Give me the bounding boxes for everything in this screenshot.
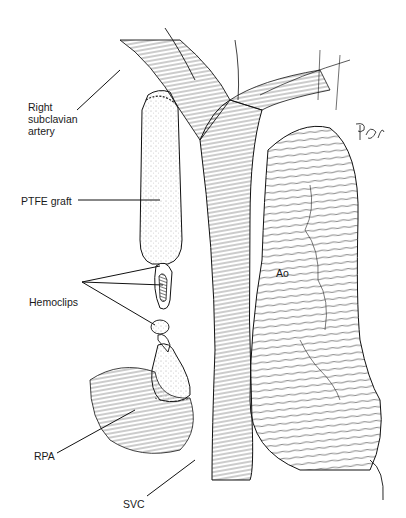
label-line-3: artery	[28, 125, 78, 137]
rpa-vessel	[90, 344, 193, 454]
illustration-drawing	[0, 0, 406, 518]
surgical-illustration: Right subclavian artery PTFE graft Hemoc…	[0, 0, 406, 518]
ptfe-graft	[140, 91, 182, 264]
hemoclips	[151, 263, 172, 352]
aorta	[250, 126, 383, 500]
signature-mark	[356, 124, 384, 140]
label-hemoclips: Hemoclips	[29, 296, 78, 308]
label-line-2: subclavian	[28, 113, 78, 125]
label-ao: Ao	[276, 267, 289, 279]
label-line-1: Right	[28, 101, 78, 113]
label-ptfe-graft: PTFE graft	[21, 195, 72, 207]
label-rpa: RPA	[34, 450, 55, 462]
label-svc: SVC	[123, 498, 145, 510]
label-right-subclavian-artery: Right subclavian artery	[28, 101, 78, 137]
